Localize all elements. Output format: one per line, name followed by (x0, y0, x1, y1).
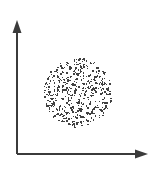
scatter-point (104, 91, 105, 92)
scatter-point (62, 99, 63, 100)
scatter-point (65, 89, 66, 90)
scatter-point (73, 124, 74, 125)
scatter-point (44, 92, 45, 93)
scatter-point (76, 64, 77, 65)
scatter-point (79, 100, 80, 101)
scatter-point (86, 83, 87, 84)
scatter-point (59, 91, 60, 92)
scatter-point (50, 71, 51, 72)
scatter-point (48, 92, 49, 93)
scatter-point (54, 102, 55, 103)
scatter-point (82, 83, 83, 84)
scatter-point (77, 103, 78, 104)
scatter-point (99, 115, 100, 116)
scatter-point (72, 121, 73, 122)
scatter-point (74, 84, 75, 85)
scatter-point (93, 95, 94, 96)
scatter-point (75, 79, 76, 80)
scatter-point (74, 92, 75, 93)
scatter-point (97, 83, 98, 84)
scatter-point (63, 72, 64, 73)
scatter-point (80, 67, 81, 68)
scatter-point (107, 94, 108, 95)
scatter-point (62, 87, 63, 88)
scatter-point (83, 83, 84, 84)
scatter-point (82, 59, 83, 60)
scatter-point (70, 91, 71, 92)
scatter-point (80, 69, 81, 70)
scatter-point (57, 89, 58, 90)
scatter-point (76, 89, 77, 90)
scatter-point (66, 87, 67, 88)
scatter-point (81, 102, 82, 103)
scatter-point (48, 86, 49, 87)
scatter-point (71, 97, 72, 98)
scatter-point (44, 86, 45, 87)
scatter-point (99, 117, 100, 118)
scatter-point (83, 66, 84, 67)
scatter-point (50, 105, 51, 106)
scatter-point (98, 70, 99, 71)
scatter-point (76, 117, 77, 118)
scatter-point (57, 109, 58, 110)
scatter-point (69, 80, 70, 81)
scatter-point (87, 68, 88, 69)
scatter-point (48, 89, 49, 90)
scatter-point (80, 76, 81, 77)
scatter-point (65, 112, 66, 113)
scatter-point (66, 72, 67, 73)
scatter-point (87, 120, 88, 121)
scatter-point (62, 91, 63, 92)
scatter-point (95, 76, 96, 77)
scatter-point (66, 117, 67, 118)
scatter-point (56, 69, 57, 70)
scatter-point (102, 115, 103, 116)
scatter-point (102, 102, 103, 103)
scatter-point (83, 121, 84, 122)
scatter-point (89, 82, 90, 83)
scatter-point (63, 82, 64, 83)
scatter-point (55, 98, 56, 99)
scatter-point (82, 116, 83, 117)
scatter-point (76, 112, 77, 113)
scatter-point (86, 106, 87, 107)
scatter-point (95, 101, 96, 102)
scatter-point (98, 88, 99, 89)
scatter-point (56, 114, 57, 115)
scatter-point (71, 118, 72, 119)
scatter-point (86, 90, 87, 91)
scatter-point (83, 72, 84, 73)
scatter-point (54, 86, 55, 87)
scatter-point (82, 61, 83, 62)
scatter-point (81, 79, 82, 80)
scatter-point (90, 101, 91, 102)
scatter-point (66, 120, 67, 121)
scatter-plot-figure (0, 0, 156, 170)
scatter-point (49, 107, 50, 108)
scatter-point (79, 109, 80, 110)
scatter-point (53, 106, 54, 107)
scatter-point (74, 125, 75, 126)
scatter-point (100, 87, 101, 88)
scatter-point (68, 123, 69, 124)
scatter-point (102, 92, 103, 93)
scatter-point (78, 99, 79, 100)
scatter-point (52, 111, 53, 112)
scatter-point (47, 105, 48, 106)
scatter-point (66, 78, 67, 79)
scatter-point (107, 108, 108, 109)
scatter-point (66, 102, 67, 103)
scatter-point (104, 78, 105, 79)
scatter-point (87, 107, 88, 108)
scatter-point (51, 103, 52, 104)
scatter-point (101, 80, 102, 81)
scatter-point (77, 122, 78, 123)
scatter-point (48, 77, 49, 78)
scatter-point (90, 102, 91, 103)
scatter-point (65, 82, 66, 83)
scatter-point (62, 77, 63, 78)
scatter-point (67, 80, 68, 81)
scatter-point (84, 95, 85, 96)
scatter-point (101, 83, 102, 84)
scatter-point (49, 108, 50, 109)
